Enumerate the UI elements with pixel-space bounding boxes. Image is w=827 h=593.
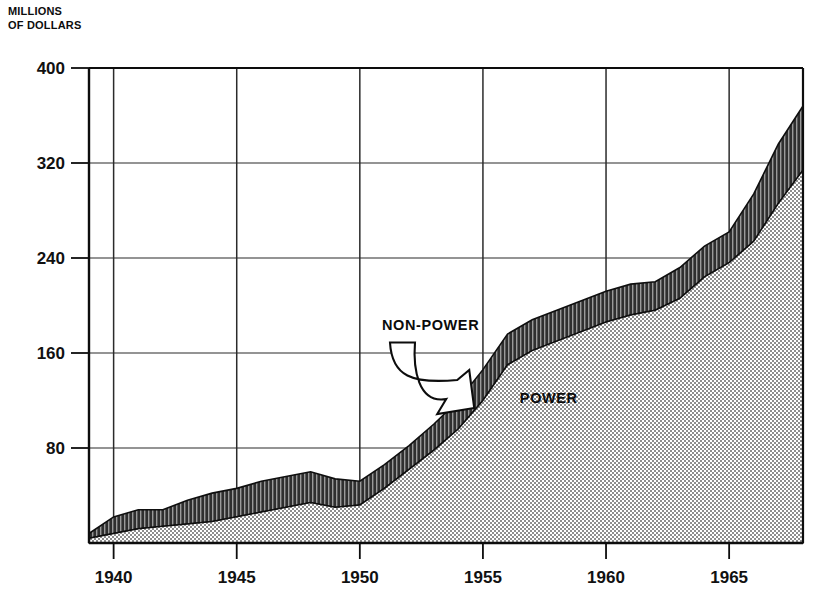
chart-canvas: MILLIONSOF DOLLARS 80160240320400 194019… (0, 0, 827, 593)
area-chart-plot: 80160240320400 194019451950195519601965 … (0, 0, 827, 593)
x-tick-label: 1940 (95, 568, 133, 587)
y-tick-label: 80 (46, 439, 65, 458)
y-axis-title: MILLIONSOF DOLLARS (8, 4, 82, 32)
x-tick-label: 1945 (218, 568, 256, 587)
x-tick-label: 1955 (464, 568, 502, 587)
y-axis-title-line-1: MILLIONS (8, 5, 62, 17)
x-axis-tick-labels: 194019451950195519601965 (95, 568, 748, 587)
x-tick-label: 1960 (587, 568, 625, 587)
x-tick-label: 1950 (341, 568, 379, 587)
area-power (89, 170, 803, 543)
series-label-power: POWER (520, 390, 578, 406)
y-tick-label: 320 (37, 154, 65, 173)
x-tick-label: 1965 (710, 568, 748, 587)
y-tick-label: 160 (37, 344, 65, 363)
y-tick-label: 400 (37, 59, 65, 78)
series-label-non-power: NON-POWER (382, 317, 479, 333)
y-tick-label: 240 (37, 249, 65, 268)
y-axis-tick-labels: 80160240320400 (37, 59, 65, 458)
y-axis-title-line-2: OF DOLLARS (8, 19, 82, 31)
